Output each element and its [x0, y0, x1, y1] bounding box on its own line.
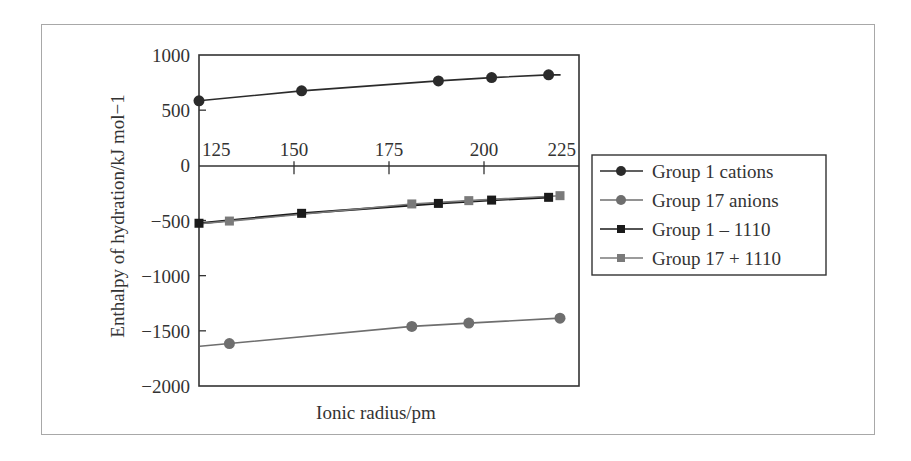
- data-point-circle: [543, 69, 554, 80]
- data-point-circle: [433, 75, 444, 86]
- x-tick-label: 225: [548, 139, 577, 160]
- data-point-square: [556, 191, 565, 200]
- plot-area: [199, 55, 579, 386]
- data-point-circle: [406, 321, 417, 332]
- y-tick-label: 500: [162, 100, 191, 121]
- data-point-circle: [194, 95, 205, 106]
- data-point-circle: [463, 318, 474, 329]
- data-point-square: [544, 193, 553, 202]
- legend-label: Group 17 anions: [652, 190, 779, 211]
- data-point-square: [225, 217, 234, 226]
- y-axis-title: Enthalpy of hydration/kJ mol−1: [107, 94, 128, 337]
- series-group: [194, 69, 566, 349]
- y-tick-label: −1500: [141, 321, 190, 342]
- data-point-square: [464, 196, 473, 205]
- series-line: [199, 75, 561, 101]
- y-tick-label: −1000: [141, 266, 190, 287]
- x-tick-label: 175: [375, 139, 404, 160]
- legend-circle-icon: [616, 166, 626, 176]
- data-point-circle: [224, 338, 235, 349]
- data-point-square: [297, 209, 306, 218]
- data-point-circle: [486, 72, 497, 83]
- legend-label: Group 1 cations: [652, 161, 773, 182]
- y-tick-label: 1000: [152, 45, 190, 66]
- data-point-circle: [296, 85, 307, 96]
- data-point-square: [487, 196, 496, 205]
- legend-label: Group 17 + 1110: [652, 248, 781, 269]
- data-point-square: [407, 199, 416, 208]
- series-line: [200, 318, 560, 346]
- chart: 125150175200225 10005000−500−1000−1500−2…: [0, 0, 911, 461]
- legend-square-icon: [617, 254, 625, 262]
- x-tick-label: 125: [202, 139, 231, 160]
- data-point-circle: [555, 313, 566, 324]
- legend-circle-icon: [616, 195, 626, 205]
- x-axis-title: Ionic radius/pm: [316, 402, 436, 423]
- x-tick-label: 200: [470, 139, 499, 160]
- legend-label: Group 1 – 1110: [652, 219, 770, 240]
- y-tick-label: −2000: [141, 376, 190, 397]
- x-tick-label: 150: [280, 139, 309, 160]
- y-tick-label: 0: [181, 155, 191, 176]
- x-ticks: 125150175200225: [202, 139, 576, 174]
- data-point-square: [195, 219, 204, 228]
- legend-square-icon: [617, 225, 625, 233]
- data-point-square: [434, 199, 443, 208]
- y-tick-label: −500: [151, 211, 190, 232]
